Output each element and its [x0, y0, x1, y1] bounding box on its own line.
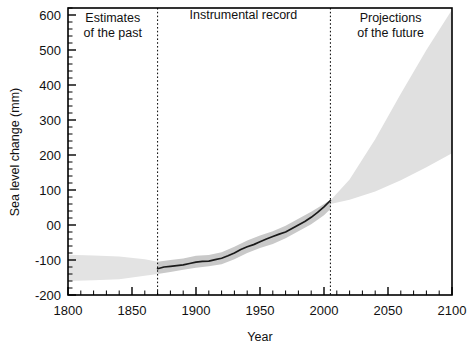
y-tick-label: -200	[35, 288, 61, 303]
annotation-line: Instrumental record	[190, 8, 298, 22]
x-tick-label: 1950	[246, 303, 275, 318]
y-tick-label: 500	[39, 43, 61, 58]
annotation-line: Projections	[360, 11, 422, 25]
y-tick-label: 600	[39, 8, 61, 23]
x-tick-label: 2100	[438, 303, 467, 318]
y-tick-label: 400	[39, 78, 61, 93]
x-tick-label: 1800	[54, 303, 83, 318]
region-annotation-1: Instrumental record	[190, 8, 298, 22]
y-axis-title: Sea level change (mm)	[8, 88, 22, 217]
region-annotation-0: Estimatesof the past	[84, 11, 143, 40]
y-tick-label: 100	[39, 183, 61, 198]
x-tick-label: 1850	[118, 303, 147, 318]
chart-canvas: -200-10000100200300400500600 18001850190…	[0, 0, 471, 348]
y-tick-label: 300	[39, 113, 61, 128]
annotation-line: of the past	[84, 26, 143, 40]
x-tick-label: 2050	[374, 303, 403, 318]
region-annotation-2: Projectionsof the future	[357, 11, 424, 40]
x-tick-label: 1900	[182, 303, 211, 318]
annotation-line: Estimates	[85, 11, 140, 25]
annotation-line: of the future	[357, 26, 424, 40]
y-axis-tick-labels-group: -200-10000100200300400500600	[35, 8, 61, 303]
y-tick-label: 00	[47, 218, 61, 233]
x-tick-label: 2000	[310, 303, 339, 318]
sea-level-change-chart: -200-10000100200300400500600 18001850190…	[0, 0, 471, 348]
x-axis-title: Year	[247, 330, 272, 344]
y-tick-label: -100	[35, 253, 61, 268]
y-tick-label: 200	[39, 148, 61, 163]
